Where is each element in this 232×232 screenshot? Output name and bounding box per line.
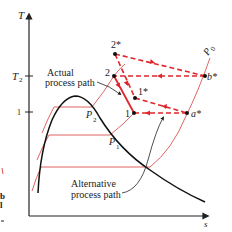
label-bstar: b* [207,71,217,82]
label-1star: 1* [138,86,148,97]
t2-label: T [12,70,19,82]
margin-mark [2,168,3,174]
point-2 [112,74,116,78]
label-astar: a* [191,108,201,119]
t2-sub: 2 [19,76,23,84]
s-axis-label: s [204,219,208,229]
point-2star [113,52,117,56]
label-2star: 2* [111,39,121,50]
ts-diagram: T s T 2 1 2* 2 1* 1 a* b* P 2 P 1 P 0 Ac… [0,0,232,232]
t-axis-label: T [18,9,25,21]
margin-fragment-l: l [0,200,3,210]
point-1star [133,96,137,100]
point-1 [132,111,136,115]
label-p2: P [85,109,92,120]
saturation-dome [38,96,205,202]
point-astar [185,111,189,115]
label-p2-sub: 2 [93,116,97,124]
alt-leader [122,118,163,193]
alt-path-label-2: process path [71,189,121,200]
alt-path-label-1: Alternative [71,178,117,189]
t1-sub: 1 [17,108,21,117]
label-2: 2 [105,67,110,78]
actual-path-label-2: process path [45,77,95,88]
label-p1: P [108,136,115,147]
label-1: 1 [125,108,130,119]
actual-path [114,76,134,113]
label-p1-sub: 1 [116,143,120,151]
